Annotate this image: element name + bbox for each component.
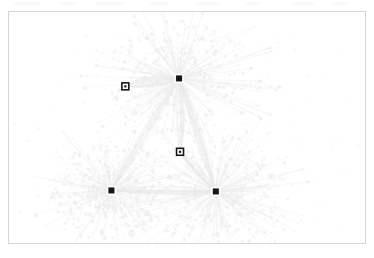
scan-smudge bbox=[150, 2, 168, 5]
scan-smudge bbox=[14, 2, 40, 5]
hub-marker-hub-southeast bbox=[212, 187, 220, 195]
figure-root bbox=[0, 0, 374, 258]
site-marker-site-northwest bbox=[122, 83, 129, 90]
plot-frame bbox=[8, 11, 366, 244]
site-marker-site-center bbox=[177, 148, 184, 155]
node-layer bbox=[10, 12, 365, 243]
scan-smudge bbox=[292, 2, 314, 5]
scan-smudge bbox=[196, 2, 220, 5]
scan-smudge bbox=[246, 2, 262, 5]
scan-smudge bbox=[96, 2, 126, 5]
hub-marker-hub-north bbox=[175, 74, 183, 82]
scan-artifact-band bbox=[0, 0, 374, 11]
hub-marker-hub-southwest bbox=[107, 186, 115, 194]
scan-smudge bbox=[58, 2, 78, 5]
network-graph-canvas bbox=[9, 12, 365, 243]
scan-smudge bbox=[332, 2, 350, 5]
